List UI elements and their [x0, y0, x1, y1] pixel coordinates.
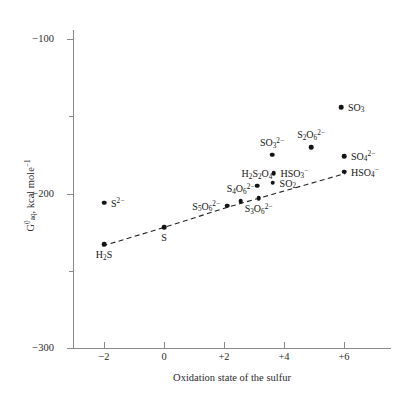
data-label-H2S: H2S	[96, 249, 112, 260]
data-label-HSO4-: HSO4−	[351, 166, 379, 177]
y-minor-tick-250	[69, 271, 74, 272]
data-point-S5O6	[225, 204, 230, 209]
y-axis-title-text: G0aq, kcal mole−1	[25, 160, 36, 232]
data-label-SO2: SO2	[280, 177, 296, 188]
y-minor-tick-150	[69, 116, 74, 117]
data-label-S2O6: S2O62−	[297, 129, 325, 140]
data-point-HSO4-	[342, 170, 347, 175]
data-label-S4O6: S4O62−	[227, 183, 255, 194]
x-tick-4	[344, 342, 345, 349]
data-label-S: S	[161, 232, 167, 243]
y-tick-label-300: −300	[0, 343, 63, 353]
data-point-S2-	[102, 200, 107, 205]
x-tick-0	[104, 342, 105, 349]
y-axis-line	[73, 30, 74, 349]
data-label-SO3: SO3	[348, 101, 364, 112]
data-point-SO2	[270, 180, 275, 185]
data-label-SO32-: SO32−	[260, 137, 284, 148]
x-tick-3	[284, 342, 285, 349]
data-point-S	[162, 225, 167, 230]
y-tick-100	[67, 39, 74, 40]
data-label-S2-: S2−	[111, 197, 124, 208]
x-axis-title: Oxidation state of the sulfur	[73, 372, 391, 383]
y-tick-200	[67, 194, 74, 195]
data-label-SO42-: SO42−	[351, 151, 375, 162]
data-point-SO32-	[270, 153, 275, 158]
data-point-S2O6	[309, 145, 314, 150]
x-tick-label-1: 0	[144, 351, 184, 362]
x-tick-label-0: −2	[84, 351, 124, 362]
data-point-SO42-	[342, 154, 347, 159]
chart-figure: −100−200−300−20+2+4+6 H2SS2−SS5O62−S4O62…	[0, 0, 420, 403]
data-point-H2S2O4	[255, 183, 260, 188]
x-tick-1	[164, 342, 165, 349]
data-point-S3O6	[256, 196, 261, 201]
y-tick-label-100: −100	[0, 34, 63, 44]
x-tick-label-2: +2	[204, 351, 244, 362]
data-label-S5O6: S5O62−	[192, 200, 220, 211]
data-point-H2S	[102, 242, 107, 247]
data-label-S3O6: S3O62−	[245, 203, 273, 214]
x-tick-2	[224, 342, 225, 349]
y-axis-title: G0aq, kcal mole−1	[25, 126, 36, 266]
data-point-HSO3-	[271, 171, 276, 176]
data-point-S4O6	[238, 199, 243, 204]
data-label-H2S2O4: H2S2O4	[242, 168, 273, 179]
y-tick-300	[67, 348, 74, 349]
data-point-SO3	[339, 105, 344, 110]
x-tick-label-3: +4	[264, 351, 304, 362]
x-tick-label-4: +6	[324, 351, 364, 362]
